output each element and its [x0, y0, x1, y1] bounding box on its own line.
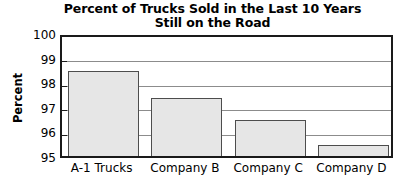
plot-area [60, 35, 393, 158]
chart-title: Percent of Trucks Sold in the Last 10 Ye… [20, 2, 405, 30]
x-axis-tick-labels: A-1 TrucksCompany BCompany CCompany D [60, 160, 393, 180]
y-axis-tick-label: 100 [28, 29, 56, 41]
plot-inner [62, 37, 391, 156]
chart-screenshot: Percent of Trucks Sold in the Last 10 Ye… [0, 0, 415, 186]
y-axis-tick-label: 98 [28, 78, 56, 90]
x-axis-tick-label: A-1 Trucks [60, 160, 143, 176]
y-axis-tick-labels: 1009998979695 [24, 0, 56, 186]
y-axis-tick-mark [62, 110, 67, 111]
bar [151, 98, 222, 156]
y-axis-tick-label: 99 [28, 54, 56, 66]
y-axis-tick-mark [62, 86, 67, 87]
x-axis-tick-label: Company B [143, 160, 226, 176]
bar [68, 71, 139, 156]
x-axis-tick-label: Company D [310, 160, 393, 176]
y-axis-tick-label: 97 [28, 103, 56, 115]
gridline [62, 61, 391, 62]
bar [318, 145, 389, 156]
y-axis-tick-label: 96 [28, 127, 56, 139]
y-axis-tick-mark [62, 61, 67, 62]
x-axis-tick-label: Company C [227, 160, 310, 176]
y-axis-tick-mark [62, 135, 67, 136]
y-axis-tick-label: 95 [28, 152, 56, 164]
bar [235, 120, 306, 156]
